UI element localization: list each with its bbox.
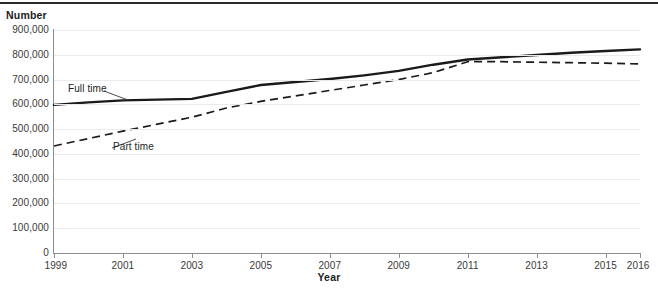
gridline — [54, 80, 640, 81]
x-axis-tick-label: 1999 — [44, 260, 67, 271]
series-layer — [0, 0, 658, 295]
gridline — [54, 104, 640, 105]
chart-container: Number 900,000800,000700,000600,000500,0… — [0, 0, 658, 295]
x-axis-tick — [54, 253, 55, 258]
gridline — [54, 228, 640, 229]
gridline — [54, 30, 640, 31]
part-time-label: Part time — [113, 141, 154, 152]
x-axis-tick — [606, 253, 607, 258]
x-axis-tick-label: 2001 — [112, 260, 135, 271]
x-axis-tick — [123, 253, 124, 258]
full-time-line — [54, 49, 640, 105]
gridline — [54, 154, 640, 155]
x-axis-tick — [640, 253, 641, 258]
full-time-leader-line — [104, 91, 128, 100]
gridline — [54, 129, 640, 130]
full-time-label: Full time — [68, 83, 107, 94]
x-axis-tick — [261, 253, 262, 258]
gridline — [54, 179, 640, 180]
x-axis-tick-label: 2015 — [594, 260, 617, 271]
x-axis-tick — [192, 253, 193, 258]
x-axis-tick-label: 2007 — [318, 260, 341, 271]
x-axis-tick — [537, 253, 538, 258]
x-axis-tick-label: 2009 — [387, 260, 410, 271]
x-axis-tick-label: 2013 — [525, 260, 548, 271]
x-axis-tick — [399, 253, 400, 258]
x-axis-tick — [330, 253, 331, 258]
x-axis-title: Year — [0, 271, 658, 283]
x-axis-tick-label: 2005 — [249, 260, 272, 271]
gridline — [54, 203, 640, 204]
x-axis-tick-label: 2003 — [181, 260, 204, 271]
x-axis-tick — [468, 253, 469, 258]
gridline — [54, 55, 640, 56]
x-axis-tick-label: 2016 — [627, 260, 650, 271]
x-axis-tick-label: 2011 — [457, 260, 479, 271]
